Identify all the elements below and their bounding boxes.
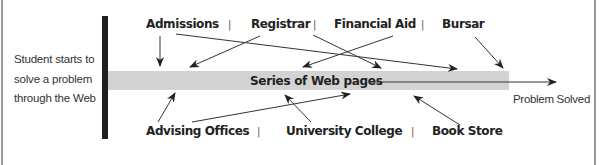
- arrow-bursar: [475, 37, 503, 68]
- arrow-advising-up: [158, 93, 175, 122]
- arrow-admissions-long: [176, 34, 457, 69]
- arrow-book-store: [414, 96, 460, 125]
- arrow-advising-long: [192, 94, 350, 122]
- arrow-registrar: [190, 36, 260, 67]
- arrow-university-college: [285, 95, 311, 122]
- arrows-layer: [0, 0, 599, 165]
- arrow-registrar-right: [313, 35, 381, 68]
